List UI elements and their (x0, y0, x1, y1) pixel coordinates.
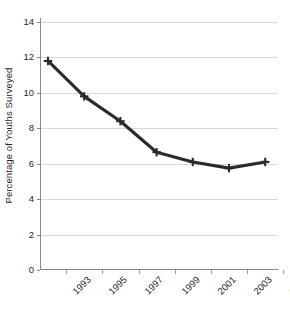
data-point-marker (261, 158, 269, 166)
chart-figure: Percentage of Youths Surveyed 0246810121… (0, 0, 290, 322)
y-axis-tick-label: 12 (14, 52, 34, 62)
y-axis-tick-label: 2 (14, 230, 34, 240)
x-axis-tick-label: 2003 (251, 274, 274, 297)
x-axis-tick-label: 1995 (106, 274, 129, 297)
line-series (40, 22, 278, 270)
x-axis-tick-label: 2005 (287, 274, 290, 297)
y-axis-tick-label: 0 (14, 265, 34, 275)
y-axis-tick-labels: 02468101214 (14, 0, 34, 322)
y-axis-title-text: Percentage of Youths Surveyed (3, 67, 14, 203)
y-axis-tick-label: 8 (14, 123, 34, 133)
plot-area (40, 22, 278, 270)
y-axis-tick-label: 6 (14, 159, 34, 169)
x-axis-tick-label: 1993 (70, 274, 93, 297)
y-axis-tick-label: 10 (14, 88, 34, 98)
data-point-marker (225, 164, 233, 172)
data-point-marker (189, 158, 197, 166)
x-axis-tick-label: 1999 (179, 274, 202, 297)
x-axis-tick-label: 2001 (215, 274, 238, 297)
figure-caption (18, 315, 278, 322)
x-axis-tick-label: 1997 (143, 274, 166, 297)
series-markers (44, 57, 270, 173)
y-axis-tick-label: 14 (14, 17, 34, 27)
y-axis-tick-label: 4 (14, 194, 34, 204)
